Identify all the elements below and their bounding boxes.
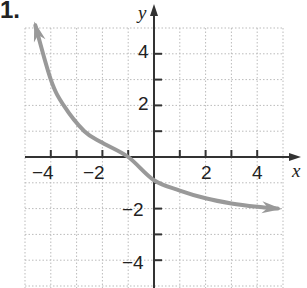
x-tick-label-neg2: −2 bbox=[83, 162, 105, 184]
x-tick-label-neg4: −4 bbox=[32, 162, 54, 184]
x-tick-label-2: 2 bbox=[201, 162, 212, 184]
x-tick-label-4: 4 bbox=[252, 162, 263, 184]
y-tick-label-4: 4 bbox=[138, 41, 149, 63]
x-axis-label: x bbox=[292, 160, 300, 182]
y-tick-label-neg4: −4 bbox=[122, 252, 144, 274]
y-axis-label: y bbox=[138, 2, 146, 24]
plot-area bbox=[0, 0, 307, 288]
y-tick-label-2: 2 bbox=[138, 93, 149, 115]
y-axis-arrow-icon bbox=[150, 4, 158, 16]
y-tick-label-neg2: −2 bbox=[122, 199, 144, 221]
